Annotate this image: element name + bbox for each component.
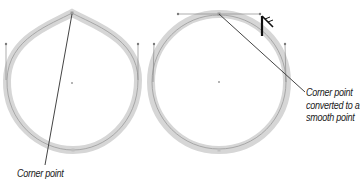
circle-bottom-anchor[interactable] [218, 149, 221, 152]
circle-shape [151, 13, 305, 152]
teardrop-shape [5, 12, 139, 166]
right-callout-line-2: converted to a [306, 99, 360, 112]
right-handle-point[interactable] [137, 43, 139, 45]
circle-right-handle-point[interactable] [284, 43, 286, 45]
right-callout-label: Corner point converted to a smooth point [306, 86, 360, 124]
left-callout-label: Corner point [17, 167, 64, 180]
left-callout-leader [45, 14, 72, 165]
left-callout-line-1: Corner point [17, 167, 64, 180]
top-handle-left-point[interactable] [177, 13, 179, 15]
circle-left-handle-point[interactable] [153, 43, 155, 45]
teardrop-center-point [71, 82, 73, 84]
left-handle-point[interactable] [5, 43, 7, 45]
circle-center-point [218, 81, 220, 83]
right-callout-line-1: Corner point [306, 86, 360, 99]
top-handle-right-point[interactable] [259, 13, 261, 15]
bottom-anchor[interactable] [72, 149, 75, 152]
teardrop-stroke-halo [7, 13, 138, 150]
right-callout-line-3: smooth point [306, 111, 360, 124]
